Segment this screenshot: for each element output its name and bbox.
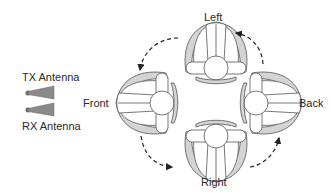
person-right-orientation: [185, 120, 247, 182]
person-front-orientation: [116, 72, 178, 134]
tx-antenna-label: TX Antenna: [22, 72, 80, 83]
arrow-right-to-back: [250, 138, 279, 167]
orientation-label-right: Right: [201, 177, 227, 188]
orientation-label-left: Left: [204, 12, 222, 23]
orientation-label-back: Back: [299, 98, 323, 109]
rx-antenna-label: RX Antenna: [22, 121, 81, 132]
arrow-front-to-right: [141, 136, 172, 167]
person-left-orientation: [185, 22, 247, 84]
diagram-canvas: [0, 0, 331, 193]
tx-antenna-icon: [26, 86, 55, 99]
person-back-orientation: [240, 72, 302, 134]
orientation-label-front: Front: [83, 98, 109, 109]
arrow-left-to-front: [140, 38, 178, 70]
rx-antenna-icon: [26, 103, 55, 116]
